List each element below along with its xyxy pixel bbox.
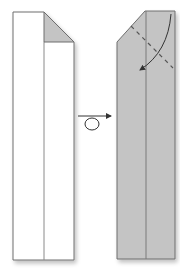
right-strip <box>117 11 175 259</box>
folded-corner-flap <box>44 12 74 42</box>
left-strip <box>13 12 74 260</box>
origami-diagram <box>0 0 180 276</box>
turn-over-icon <box>78 116 111 130</box>
